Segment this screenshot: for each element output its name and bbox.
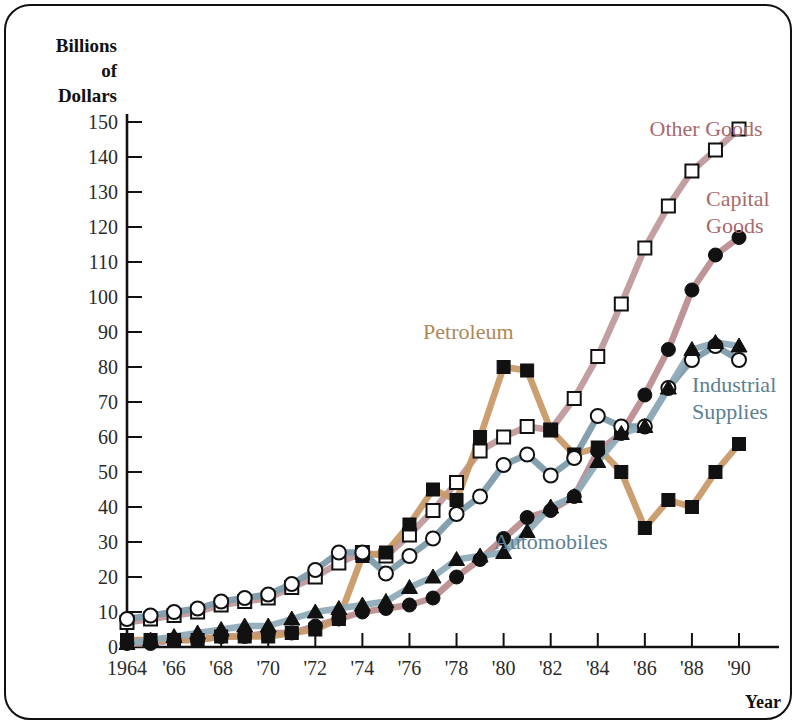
data-point-open-square [638, 242, 651, 255]
data-point-open-circle [332, 546, 346, 560]
data-point-filled-square [450, 494, 463, 507]
data-point-open-circle [261, 588, 275, 602]
x-tick-label: '70 [256, 657, 280, 679]
data-point-filled-square [521, 364, 534, 377]
data-point-open-circle [591, 409, 605, 423]
markers-capital-goods [120, 231, 746, 651]
data-point-open-circle [732, 353, 746, 367]
y-tick-label: 80 [98, 356, 118, 378]
data-point-filled-square [662, 494, 675, 507]
series-annotation: Other Goods [650, 116, 763, 141]
data-point-filled-circle [661, 343, 675, 357]
y-tick-label: 140 [88, 146, 118, 168]
data-point-open-circle [402, 549, 416, 563]
data-point-filled-square [497, 361, 510, 374]
data-point-open-circle [144, 609, 158, 623]
data-point-open-circle [308, 563, 322, 577]
data-point-open-square [568, 392, 581, 405]
x-tick-label: '68 [209, 657, 233, 679]
y-tick-label: 70 [98, 391, 118, 413]
data-point-open-square [521, 420, 534, 433]
series-annotation: Goods [706, 213, 763, 238]
data-point-open-circle [544, 469, 558, 483]
data-point-open-circle [567, 451, 581, 465]
y-axis-ticks: 0102030405060708090100110120130140150 [88, 111, 142, 658]
x-tick-label: '78 [445, 657, 469, 679]
data-point-open-circle [167, 605, 181, 619]
y-axis-title-line: Billions [56, 35, 117, 56]
y-tick-label: 130 [88, 181, 118, 203]
data-point-open-circle [497, 458, 511, 472]
data-point-open-square [685, 165, 698, 178]
series-annotation: Automobiles [494, 529, 608, 554]
series-other-goods [127, 129, 739, 623]
y-axis-title-line: of [101, 60, 118, 81]
series-annotation: Capital [706, 186, 770, 211]
series-annotation: Petroleum [423, 319, 513, 344]
data-point-open-circle [238, 591, 252, 605]
data-point-open-circle [473, 490, 487, 504]
x-axis-title-text: Year [745, 692, 781, 712]
data-point-filled-square [544, 424, 557, 437]
data-point-open-circle [520, 448, 534, 462]
y-tick-label: 50 [98, 461, 118, 483]
y-axis-title-group: BillionsofDollars [56, 35, 118, 106]
data-point-filled-circle [685, 283, 699, 297]
data-point-open-circle [355, 546, 369, 560]
data-point-filled-square [615, 466, 628, 479]
data-point-filled-circle [520, 511, 534, 525]
data-point-filled-square [474, 431, 487, 444]
data-point-open-square [497, 431, 510, 444]
y-tick-label: 10 [98, 601, 118, 623]
series-annotation: Industrial [692, 372, 776, 397]
y-tick-label: 20 [98, 566, 118, 588]
data-point-open-square [591, 350, 604, 363]
x-tick-label: '84 [586, 657, 610, 679]
data-point-open-square [450, 476, 463, 489]
data-point-open-circle [450, 507, 464, 521]
series-lines [127, 129, 739, 644]
x-tick-label: '82 [539, 657, 563, 679]
data-point-filled-square [591, 441, 604, 454]
y-tick-label: 150 [88, 111, 118, 133]
data-point-open-circle [214, 595, 228, 609]
data-point-filled-square [733, 438, 746, 451]
data-point-filled-square [285, 627, 298, 640]
y-tick-label: 40 [98, 496, 118, 518]
x-tick-label: '80 [492, 657, 516, 679]
data-point-open-circle [426, 532, 440, 546]
data-point-filled-square [427, 483, 440, 496]
data-point-filled-square [309, 623, 322, 636]
x-tick-label: '88 [680, 657, 704, 679]
series-annotation: Supplies [692, 399, 768, 424]
data-point-open-circle [191, 602, 205, 616]
data-point-filled-circle [450, 570, 464, 584]
y-tick-label: 90 [98, 321, 118, 343]
data-point-open-circle [379, 567, 393, 581]
x-tick-label: '90 [727, 657, 751, 679]
y-axis-title-line: Dollars [58, 85, 117, 106]
data-point-open-square [427, 504, 440, 517]
x-tick-label: 1964 [107, 657, 147, 679]
data-point-filled-circle [402, 598, 416, 612]
data-point-open-circle [285, 577, 299, 591]
data-point-filled-square [638, 522, 651, 535]
y-tick-label: 110 [89, 251, 118, 273]
x-tick-label: '72 [304, 657, 328, 679]
axes [127, 114, 779, 647]
data-point-open-square [615, 298, 628, 311]
data-point-filled-square [709, 466, 722, 479]
chart-canvas: 0102030405060708090100110120130140150196… [0, 0, 796, 724]
data-point-open-square [709, 144, 722, 157]
data-point-filled-circle [638, 388, 652, 402]
data-point-open-square [662, 200, 675, 213]
line-chart: 0102030405060708090100110120130140150196… [0, 0, 796, 724]
y-tick-label: 30 [98, 531, 118, 553]
series-annotations: Other GoodsCapitalGoodsIndustrialSupplie… [423, 116, 776, 554]
y-tick-label: 60 [98, 426, 118, 448]
y-tick-label: 0 [108, 636, 118, 658]
x-tick-label: '86 [633, 657, 657, 679]
data-point-filled-square [379, 546, 392, 559]
x-tick-label: '76 [398, 657, 422, 679]
x-tick-label: '66 [162, 657, 186, 679]
